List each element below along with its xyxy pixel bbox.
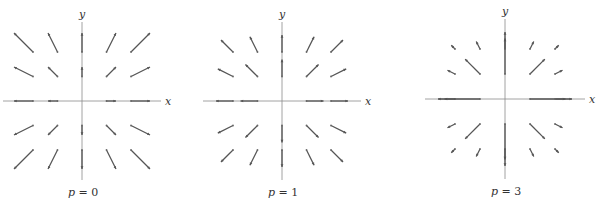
grid-point [32, 76, 34, 78]
grid-point [479, 148, 481, 150]
grid-point [257, 76, 259, 78]
grid-point [232, 76, 234, 78]
grid-point [454, 48, 456, 50]
grid-point [106, 51, 108, 53]
y-axis-label: y [78, 8, 86, 21]
grid-point [232, 125, 234, 127]
arrowhead-icon [345, 100, 348, 103]
vector-arrow [530, 124, 545, 139]
grid-point [257, 100, 259, 102]
y-axis-label: y [278, 8, 286, 21]
grid-point [281, 76, 283, 78]
arrowhead-icon [147, 100, 150, 103]
vector-arrow [107, 150, 117, 169]
grid-point [554, 98, 556, 100]
grid-point [306, 76, 308, 78]
grid-point [130, 149, 132, 151]
grid-point [32, 51, 34, 53]
grid-point [454, 73, 456, 75]
grid-point [330, 76, 332, 78]
vector-arrow [131, 126, 150, 136]
grid-point [81, 51, 83, 53]
grid-point [529, 98, 531, 100]
grid-point [529, 73, 531, 75]
grid-point [479, 73, 481, 75]
arrowhead-icon [504, 163, 507, 166]
grid-point [504, 73, 506, 75]
grid-point [257, 125, 259, 127]
vector-arrow [14, 33, 33, 52]
grid-point [57, 76, 59, 78]
grid-point [306, 149, 308, 151]
vector-field-panel-p1: xyp = 1 [203, 8, 372, 198]
grid-point [554, 48, 556, 50]
grid-point [529, 48, 531, 50]
grid-point [57, 51, 59, 53]
grid-point [257, 51, 259, 53]
arrowhead-icon [216, 100, 219, 103]
grid-point [479, 98, 481, 100]
arrowhead-icon [14, 100, 17, 103]
arrowhead-icon [81, 67, 84, 70]
vector-arrow [131, 67, 150, 77]
grid-point [257, 149, 259, 151]
panel-caption: p = 1 [268, 186, 298, 198]
grid-point [479, 123, 481, 125]
grid-point [106, 76, 108, 78]
y-axis-label: y [501, 5, 509, 18]
grid-point [330, 149, 332, 151]
grid-point [330, 100, 332, 102]
grid-point [232, 100, 234, 102]
vector-arrow [14, 126, 33, 136]
arrowhead-icon [563, 98, 566, 101]
grid-point [32, 100, 34, 102]
panel-caption: p = 3 [491, 185, 521, 198]
arrowhead-icon [81, 33, 84, 36]
grid-point [57, 149, 59, 151]
grid-point [232, 51, 234, 53]
grid-point [504, 48, 506, 50]
vector-field-figure: xyp = 0xyp = 1xyp = 3 [0, 0, 600, 198]
grid-point [330, 125, 332, 127]
grid-point [130, 100, 132, 102]
grid-point [232, 149, 234, 151]
vector-arrow [465, 124, 480, 139]
grid-point [529, 148, 531, 150]
grid-point [106, 125, 108, 127]
arrowhead-icon [281, 140, 284, 143]
x-axis-label: x [165, 95, 172, 108]
grid-point [454, 148, 456, 150]
grid-point [330, 51, 332, 53]
panel-caption: p = 0 [68, 186, 98, 198]
grid-point [57, 125, 59, 127]
vector-arrow [48, 150, 58, 169]
grid-point [130, 51, 132, 53]
grid-point [529, 123, 531, 125]
grid-point [454, 123, 456, 125]
grid-point [57, 100, 59, 102]
grid-point [306, 125, 308, 127]
arrowhead-icon [281, 35, 284, 38]
vector-arrow [465, 59, 480, 74]
x-axis-label: x [365, 95, 372, 108]
grid-point [81, 76, 83, 78]
vector-arrow [14, 67, 33, 77]
arrowhead-icon [281, 164, 284, 167]
grid-point [306, 51, 308, 53]
vector-arrow [131, 150, 150, 169]
arrowhead-icon [504, 32, 507, 35]
grid-point [32, 125, 34, 127]
arrowhead-icon [281, 60, 284, 63]
grid-point [554, 148, 556, 150]
grid-point [281, 149, 283, 151]
grid-point [281, 51, 283, 53]
grid-point [281, 125, 283, 127]
grid-point [554, 123, 556, 125]
grid-point [32, 149, 34, 151]
grid-point [306, 100, 308, 102]
vector-arrow [14, 150, 33, 169]
grid-point [554, 73, 556, 75]
grid-point [106, 100, 108, 102]
grid-point [106, 149, 108, 151]
grid-point [81, 149, 83, 151]
